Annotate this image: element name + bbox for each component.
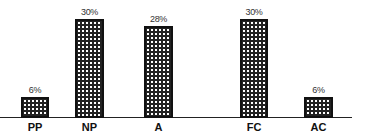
value-label: 6%: [15, 85, 55, 95]
bar-fc: [240, 19, 268, 118]
value-label: 28%: [139, 14, 179, 24]
bar-np: [75, 19, 104, 118]
bar-a: [144, 26, 173, 118]
bar-chart: 6%PP30%NP28%A30%FC6%AC: [0, 0, 370, 140]
category-label: PP: [15, 121, 55, 133]
value-label: 30%: [70, 7, 110, 17]
bar-pp: [21, 97, 49, 118]
x-axis-line: [0, 117, 352, 118]
category-label: NP: [70, 121, 110, 133]
category-label: AC: [299, 121, 339, 133]
value-label: 6%: [299, 85, 339, 95]
category-label: A: [139, 121, 179, 133]
value-label: 30%: [234, 7, 274, 17]
bar-ac: [304, 97, 333, 118]
category-label: FC: [234, 121, 274, 133]
